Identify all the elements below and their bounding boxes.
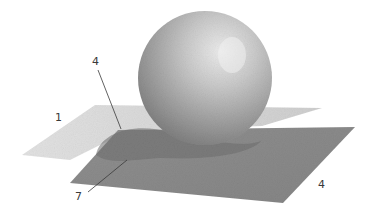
sphere-highlight [218, 37, 246, 73]
shadow-edge-label: 4 [92, 55, 99, 68]
cast-shadow-label: 7 [75, 190, 82, 203]
sphere-illustration: 1 4 7 4 [0, 0, 374, 215]
front-plane-label: 4 [318, 178, 325, 191]
light-plane-label: 1 [55, 111, 62, 124]
sphere [138, 11, 272, 145]
